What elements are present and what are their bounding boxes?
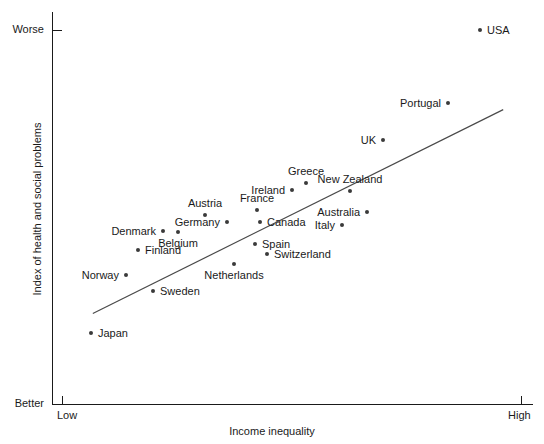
- data-point-label: Austria: [188, 198, 222, 209]
- data-point-label: Switzerland: [274, 249, 331, 260]
- data-point-label: Canada: [267, 217, 306, 228]
- data-point: [265, 252, 269, 256]
- y-axis-label-worse: Worse: [12, 23, 44, 35]
- data-point: [161, 229, 165, 233]
- data-point-label: Netherlands: [204, 270, 263, 281]
- data-point-label: Australia: [317, 207, 360, 218]
- y-axis-line: [52, 12, 53, 405]
- x-axis-title: Income inequality: [0, 425, 544, 437]
- data-point: [381, 138, 385, 142]
- data-point: [89, 331, 93, 335]
- data-point: [365, 210, 369, 214]
- x-axis-tick-low: [62, 396, 63, 405]
- data-point-label: New Zealand: [318, 174, 383, 185]
- data-point-label: USA: [487, 25, 510, 36]
- x-axis-label-low: Low: [57, 409, 77, 421]
- x-axis-tick-high: [521, 396, 522, 405]
- data-point: [258, 220, 262, 224]
- x-axis-line: [52, 404, 533, 405]
- y-axis-tick-worse: [53, 30, 62, 31]
- data-point: [446, 101, 450, 105]
- data-point: [340, 223, 344, 227]
- data-point-label: Japan: [98, 328, 128, 339]
- data-point: [478, 28, 482, 32]
- data-point: [304, 181, 308, 185]
- data-point-label: Denmark: [111, 226, 156, 237]
- data-point: [348, 189, 352, 193]
- data-point-label: Italy: [315, 220, 335, 231]
- y-axis-tick-better: [53, 404, 62, 405]
- data-point-label: Norway: [82, 270, 119, 281]
- data-point: [136, 248, 140, 252]
- data-point-label: Sweden: [160, 286, 200, 297]
- data-point: [225, 220, 229, 224]
- scatter-chart: Worse Better Low High Income inequality …: [0, 0, 544, 444]
- data-point: [253, 242, 257, 246]
- data-point: [255, 208, 259, 212]
- y-axis-label-better: Better: [15, 397, 44, 409]
- x-axis-label-high: High: [508, 409, 531, 421]
- data-point: [290, 188, 294, 192]
- data-point-label: Portugal: [400, 98, 441, 109]
- data-point: [232, 262, 236, 266]
- data-point-label: UK: [361, 135, 376, 146]
- data-point: [176, 230, 180, 234]
- y-axis-title: Index of health and social problems: [31, 74, 43, 344]
- data-point: [151, 289, 155, 293]
- data-point: [124, 273, 128, 277]
- data-point-label: Ireland: [251, 185, 285, 196]
- data-point-label: Belgium: [158, 238, 198, 249]
- data-point-label: Germany: [175, 217, 220, 228]
